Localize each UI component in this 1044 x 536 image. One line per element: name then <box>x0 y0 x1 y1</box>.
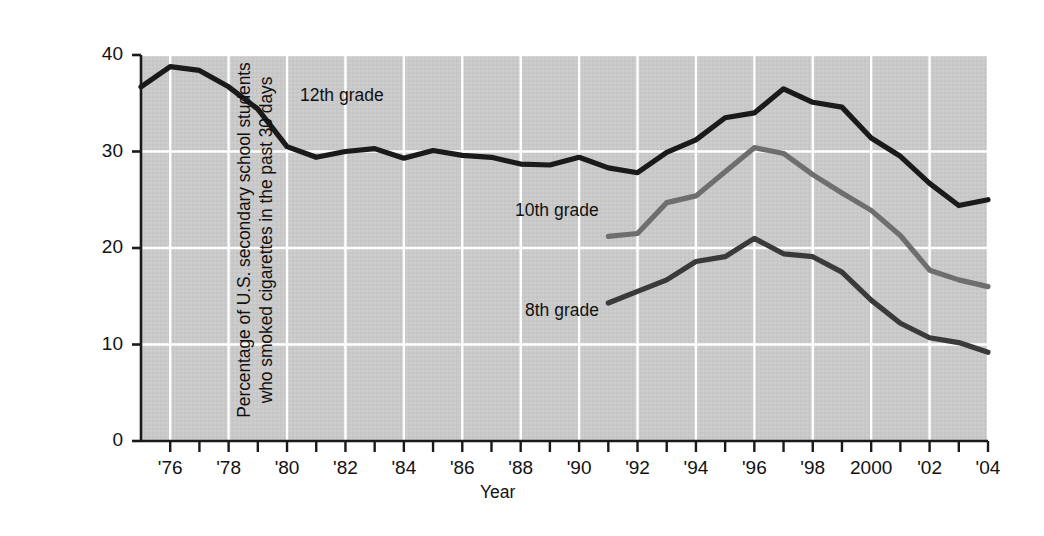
x-tick-label: 2000 <box>841 457 901 479</box>
x-tick-label: '98 <box>783 457 843 479</box>
y-tick-label: 30 <box>83 140 123 162</box>
y-tick-label: 40 <box>83 43 123 65</box>
x-tick-label: '78 <box>199 457 259 479</box>
x-tick-label: '76 <box>140 457 200 479</box>
y-tick-label: 20 <box>83 236 123 258</box>
x-tick-label: '90 <box>549 457 609 479</box>
x-tick-label: '04 <box>958 457 1018 479</box>
x-tick-label: '92 <box>608 457 668 479</box>
x-tick-label: '86 <box>432 457 492 479</box>
series-label-10th-grade: 10th grade <box>515 200 599 221</box>
y-axis-title: Percentage of U.S. secondary school stud… <box>14 30 76 450</box>
x-tick-label: '84 <box>374 457 434 479</box>
y-tick-label: 0 <box>83 429 123 451</box>
x-tick-label: '88 <box>491 457 551 479</box>
x-tick-label: '80 <box>257 457 317 479</box>
series-label-12th-grade: 12th grade <box>300 85 384 106</box>
x-tick-label: '96 <box>724 457 784 479</box>
y-tick-label: 10 <box>83 333 123 355</box>
chart-figure: Percentage of U.S. secondary school stud… <box>0 0 1044 536</box>
x-tick-label: '02 <box>900 457 960 479</box>
x-axis-title: Year <box>480 482 515 503</box>
series-label-8th-grade: 8th grade <box>525 300 599 321</box>
x-tick-label: '82 <box>315 457 375 479</box>
x-tick-label: '94 <box>666 457 726 479</box>
